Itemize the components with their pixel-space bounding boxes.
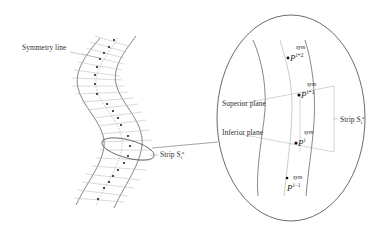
symmetry-points (94, 39, 131, 200)
strip-ribs (72, 36, 152, 202)
symmetry-line-leader (70, 52, 100, 58)
superior-plane-label: Superior plane (222, 100, 266, 108)
inferior-plane-label: Inferior plane (222, 129, 263, 137)
zoom-right-boundary (305, 40, 315, 196)
diagram-canvas (0, 0, 384, 232)
strip-left-boundary (76, 38, 104, 205)
point-label-i-plus-1: P sym i+1 (301, 85, 307, 101)
symmetry-line-label: Symmetry line (22, 44, 66, 52)
strip-label-sup: a (182, 150, 184, 155)
point-label-i: P sym i (298, 133, 304, 149)
point-label-i-minus-1: P sym i−1 (287, 178, 293, 194)
zoom-strip (253, 40, 315, 196)
zoom-left-boundary (253, 40, 265, 196)
zoom-connector (152, 142, 218, 148)
strip-highlight-ellipse (100, 133, 157, 164)
planes (240, 86, 338, 152)
strip-label-right: Strip Sia (340, 116, 364, 124)
point-label-i-plus-2: P sym i+2 (290, 48, 296, 64)
strip-label-left: Strip Sia (160, 151, 184, 159)
strip-label-right-text: Strip S (340, 115, 361, 124)
strip-label-right-sup: a (362, 115, 364, 120)
strip-label-text: Strip S (160, 150, 181, 159)
strip-label-right-sub: i (361, 120, 362, 125)
strip-label-sub: i (181, 155, 182, 160)
